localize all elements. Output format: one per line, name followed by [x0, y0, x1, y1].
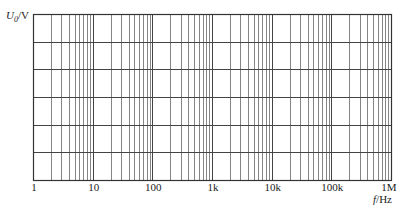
x-tick-label: 1M	[381, 181, 396, 193]
x-tick-label: 100	[145, 181, 162, 193]
x-axis-label: f/Hz	[373, 193, 392, 205]
log-frequency-grid	[0, 0, 406, 210]
x-tick-label: 10k	[264, 181, 281, 193]
x-tick-label: 1	[31, 181, 37, 193]
x-tick-label: 100k	[321, 181, 343, 193]
y-axis-label: U0/V	[6, 9, 29, 24]
x-tick-label: 1k	[208, 181, 219, 193]
x-tick-label: 10	[88, 181, 99, 193]
